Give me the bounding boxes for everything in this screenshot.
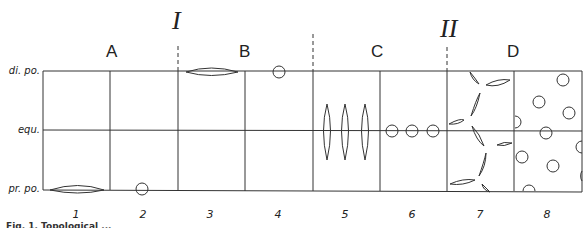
circle-cell-8 xyxy=(516,151,528,163)
lens-shape-cell-7 xyxy=(472,126,484,146)
circle-cell-8 xyxy=(515,116,521,128)
lens-shape-cell-1 xyxy=(50,186,104,194)
lens-shape-cell-7 xyxy=(471,93,480,116)
lens-shape-cell-7 xyxy=(449,120,464,125)
lens-shape-cell-7 xyxy=(482,184,490,192)
lens-shape-cell-7 xyxy=(486,80,510,86)
circle-cell-8 xyxy=(547,160,559,172)
lens-shape-cell-3 xyxy=(186,68,238,76)
lens-shape-cell-7 xyxy=(497,142,512,145)
circle-cell-2 xyxy=(136,183,148,195)
lens-shape-cell-7 xyxy=(470,72,479,84)
circle-cell-8 xyxy=(563,107,575,119)
lens-shape-cell-7 xyxy=(450,180,475,185)
circle-cell-8 xyxy=(576,141,582,153)
circle-cell-8 xyxy=(533,96,545,108)
lens-shape-cell-5 xyxy=(324,104,331,160)
circle-cell-8 xyxy=(540,127,552,139)
lens-shape-cell-5 xyxy=(342,104,349,160)
circle-cell-8 xyxy=(523,185,535,191)
circle-cell-4 xyxy=(273,66,285,78)
lens-shape-cell-5 xyxy=(362,104,369,160)
circle-cell-8 xyxy=(557,74,569,86)
stage-grid-diagram xyxy=(0,0,584,228)
lens-shape-cell-7 xyxy=(479,153,486,176)
